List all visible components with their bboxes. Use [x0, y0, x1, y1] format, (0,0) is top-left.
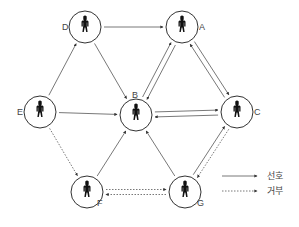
edge-rejection-e-to-f [50, 128, 78, 175]
node-a: A [166, 11, 205, 43]
edge-preference-b-to-c [155, 110, 218, 112]
edge-preference-f-to-b [97, 131, 126, 176]
edge-preference-e-to-d [49, 44, 76, 95]
node-label: B [132, 90, 138, 100]
nodes-layer: ABCDEFG [17, 11, 261, 208]
edge-preference-e-to-b [59, 113, 117, 115]
legend: 선호 거부 [222, 171, 283, 196]
edge-preference-a-to-c [194, 42, 228, 95]
edge-preference-c-to-b [155, 115, 218, 117]
node-label: A [199, 22, 205, 32]
edge-preference-g-to-b [146, 131, 175, 176]
node-label: E [17, 107, 23, 117]
preference-network-diagram: ABCDEFG 선호 거부 [0, 0, 299, 227]
node-label: F [97, 198, 103, 208]
node-f: F [71, 176, 103, 208]
legend-preference-label: 선호 [267, 171, 283, 181]
edge-preference-b-to-a [143, 43, 171, 97]
edge-preference-g-to-c [193, 127, 224, 175]
node-e: E [17, 96, 56, 128]
node-label: D [62, 22, 69, 32]
edge-preference-a-to-b [147, 45, 175, 99]
node-d: D [62, 11, 101, 43]
edge-preference-d-to-b [95, 43, 127, 98]
edge-preference-c-to-a [190, 44, 224, 97]
node-label: C [254, 107, 261, 117]
node-g: G [169, 176, 204, 208]
edge-rejection-c-to-g [197, 129, 228, 177]
node-label: G [197, 198, 204, 208]
legend-rejection-label: 거부 [267, 186, 283, 196]
node-c: C [221, 96, 261, 128]
